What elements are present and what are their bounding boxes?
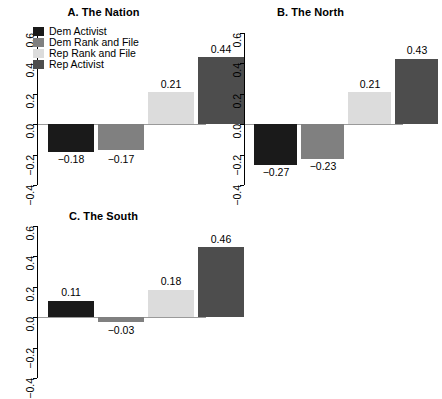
panel-b-ytick-label-2: 0.2 — [231, 94, 243, 109]
panel-c-ytick-label-4: −0.2 — [24, 348, 36, 369]
panel-c-title: C. The South — [0, 210, 207, 222]
legend-swatch-dem-activist — [33, 27, 44, 36]
panel-a-bar-dem-activist — [48, 124, 94, 151]
panel-c-bar-label-dem-activist: 0.11 — [46, 286, 96, 298]
panel-b-bar-label-rep-rank-and-file: 0.21 — [345, 78, 395, 90]
panel-c-bar-rep-rank-and-file — [148, 290, 194, 317]
panel-b-the-north: B. The North 0.6 0.4 0.2 0.0 −0.2 −0.4 −… — [207, 0, 414, 196]
panel-b-ytick-label-0: 0.6 — [231, 33, 243, 48]
legend-swatch-dem-rank-and-file — [33, 38, 44, 47]
panel-c-bar-label-rep-activist: 0.46 — [196, 233, 246, 245]
panel-a-bar-label-dem-activist: −0.18 — [46, 153, 96, 165]
panel-a-ytick-label-3: 0.0 — [24, 124, 36, 139]
panel-b-title: B. The North — [207, 6, 414, 18]
legend-swatch-rep-activist — [33, 60, 44, 69]
panel-c-ytick-label-0: 0.6 — [24, 226, 36, 241]
panel-c-bar-dem-rank-and-file — [98, 317, 144, 322]
legend-item-rep-activist: Rep Activist — [33, 59, 139, 70]
legend-swatch-rep-rank-and-file — [33, 49, 44, 58]
panel-a-bar-label-rep-rank-and-file: 0.21 — [146, 78, 196, 90]
panel-c-bar-label-rep-rank-and-file: 0.18 — [146, 275, 196, 287]
panel-a-ytick-label-4: −0.2 — [24, 155, 36, 176]
legend-label-rep-activist: Rep Activist — [49, 59, 104, 70]
panel-c-y-axis — [37, 226, 38, 378]
panel-a-ytick-label-2: 0.2 — [24, 94, 36, 109]
panel-c-the-south: C. The South 0.6 0.4 0.2 0.0 −0.2 −0.4 0… — [0, 196, 260, 392]
panel-a-title: A. The Nation — [0, 6, 207, 18]
panel-b-ytick-label-4: −0.2 — [231, 155, 243, 176]
panel-b-bar-dem-activist — [254, 124, 297, 165]
panel-a-bar-rep-rank-and-file — [148, 92, 194, 124]
panel-c-ytick-label-1: 0.4 — [24, 256, 36, 271]
panel-b-bar-dem-rank-and-file — [301, 124, 344, 159]
panel-c-ytick-label-2: 0.2 — [24, 287, 36, 302]
panel-b-bar-label-rep-activist: 0.43 — [392, 44, 442, 56]
panel-c-ytick-label-3: 0.0 — [24, 317, 36, 332]
panel-b-plot-area: 0.6 0.4 0.2 0.0 −0.2 −0.4 −0.27 −0.23 0.… — [244, 33, 404, 185]
panel-b-bar-rep-rank-and-file — [348, 92, 391, 124]
panel-a-bar-label-dem-rank-and-file: −0.17 — [96, 153, 146, 165]
panel-c-bar-label-dem-rank-and-file: −0.03 — [96, 324, 146, 336]
panel-a-the-nation: A. The Nation 0.6 0.4 0.2 0.0 −0.2 −0.4 … — [0, 0, 207, 196]
panel-c-ytick-label-5: −0.4 — [24, 378, 36, 399]
panel-c-plot-area: 0.6 0.4 0.2 0.0 −0.2 −0.4 0.11 −0.03 0.1… — [37, 226, 207, 378]
panel-b-y-axis — [244, 33, 245, 185]
panel-b-bar-label-dem-rank-and-file: −0.23 — [298, 160, 348, 172]
panel-b-bar-label-dem-activist: −0.27 — [251, 166, 301, 178]
panel-c-bar-dem-activist — [48, 301, 94, 318]
panel-b-ytick-label-1: 0.4 — [231, 63, 243, 78]
panel-b-ytick-label-3: 0.0 — [231, 124, 243, 139]
panel-c-bar-rep-activist — [198, 247, 244, 317]
panel-b-bar-rep-activist — [395, 59, 438, 124]
legend: Dem Activist Dem Rank and File Rep Rank … — [33, 26, 139, 70]
panel-a-bar-dem-rank-and-file — [98, 124, 144, 150]
